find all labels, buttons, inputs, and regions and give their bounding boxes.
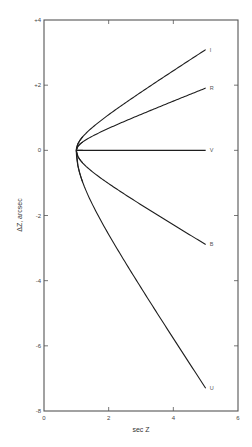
x-axis-title: sec Z [132,426,150,433]
curve-b [76,150,205,244]
y-tick-label: -6 [36,343,42,349]
curve-r [76,88,205,150]
data-curves [76,50,205,389]
y-tick-label: -2 [36,213,42,219]
curve-label-r: R [210,85,214,91]
x-tick-label: 4 [172,415,176,421]
plot-frame [44,20,238,411]
curve-label-i: I [210,47,212,53]
plot-border [44,20,238,411]
curve-u [76,150,205,388]
x-tick-label: 2 [107,415,111,421]
y-axis-title: ΔZ, arcsec [16,198,23,232]
curve-labels: IRVBU [210,47,214,392]
refraction-chart: 0246+4+20-2-4-6-8 IRVBU sec Z ΔZ, arcsec [0,0,252,447]
curve-i [76,50,205,151]
axis-ticks: 0246+4+20-2-4-6-8 [34,17,240,421]
x-tick-label: 0 [42,415,46,421]
y-tick-label: 0 [38,147,42,153]
y-tick-label: +2 [34,82,42,88]
curve-label-u: U [210,385,214,391]
curve-label-b: B [210,241,214,247]
y-tick-label: -4 [36,278,42,284]
y-tick-label: -8 [36,408,42,414]
curve-label-v: V [210,147,214,153]
x-tick-label: 6 [236,415,240,421]
y-tick-label: +4 [34,17,42,23]
